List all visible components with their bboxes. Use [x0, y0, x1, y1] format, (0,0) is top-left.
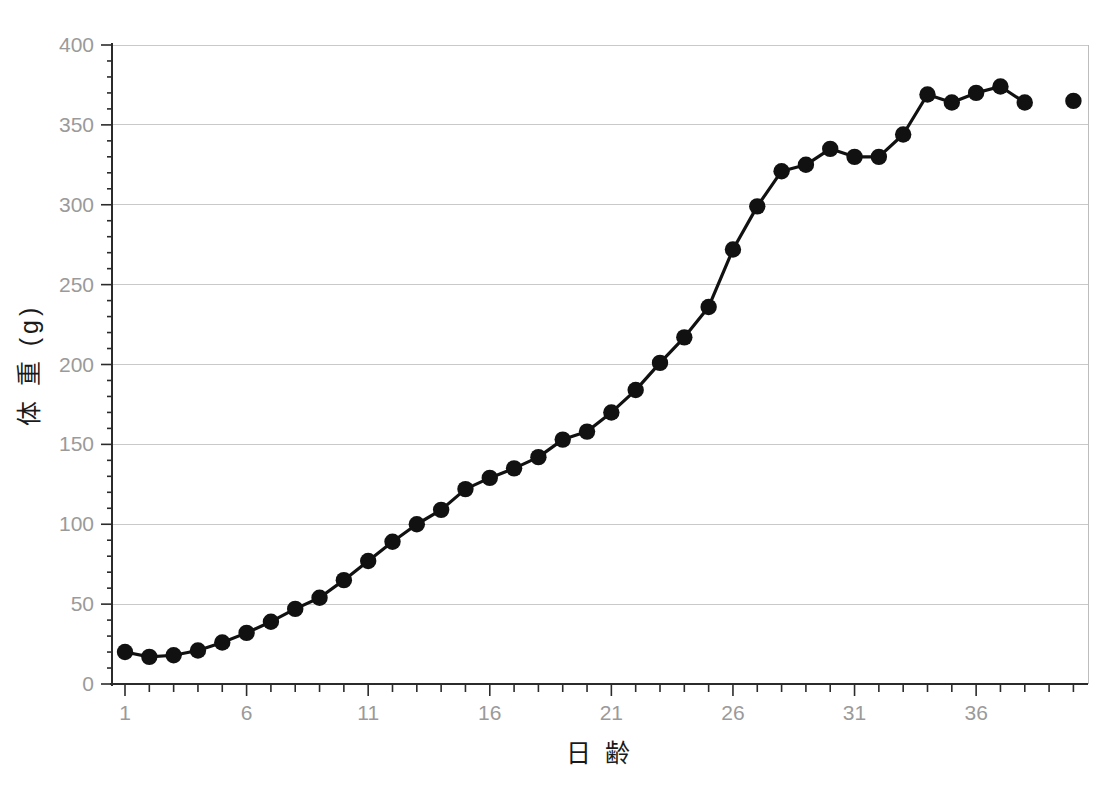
- data-point-marker: [433, 502, 449, 518]
- data-point-marker: [627, 382, 643, 398]
- x-tick-label: 36: [964, 701, 987, 724]
- data-point-marker: [798, 157, 814, 173]
- data-point-marker: [117, 644, 133, 660]
- data-point-marker: [676, 329, 692, 345]
- y-tick-label: 300: [59, 193, 94, 216]
- x-tick-label: 1: [119, 701, 131, 724]
- data-point-marker: [871, 149, 887, 165]
- data-point-marker: [214, 634, 230, 650]
- data-point-marker: [555, 431, 571, 447]
- data-point-marker: [506, 460, 522, 476]
- data-point-marker: [1017, 94, 1033, 110]
- data-point-marker: [579, 423, 595, 439]
- data-point-marker: [287, 601, 303, 617]
- x-tick-label: 31: [843, 701, 866, 724]
- data-point-marker: [968, 85, 984, 101]
- data-point-marker: [603, 404, 619, 420]
- data-point-marker: [457, 481, 473, 497]
- y-tick-label: 150: [59, 432, 94, 455]
- data-point-marker: [165, 647, 181, 663]
- y-tick-label: 50: [71, 592, 94, 615]
- data-point-marker: [749, 198, 765, 214]
- x-tick-label: 6: [241, 701, 253, 724]
- data-point-marker: [311, 590, 327, 606]
- y-axis-ticks: 050100150200250300350400: [59, 33, 112, 695]
- y-axis-title: 体 重 (g): [15, 304, 43, 426]
- y-tick-label: 400: [59, 33, 94, 56]
- y-tick-label: 250: [59, 273, 94, 296]
- chart-page: 050100150200250300350400 16111621263136 …: [0, 0, 1119, 786]
- data-point-marker: [846, 149, 862, 165]
- data-point-marker: [360, 553, 376, 569]
- growth-curve-chart: 050100150200250300350400 16111621263136 …: [0, 0, 1119, 786]
- data-point-marker: [409, 516, 425, 532]
- y-tick-label: 100: [59, 512, 94, 535]
- y-tick-label: 0: [82, 672, 94, 695]
- x-axis-ticks: [125, 684, 1073, 696]
- data-point-marker: [992, 78, 1008, 94]
- data-point-marker: [482, 470, 498, 486]
- y-tick-label: 350: [59, 113, 94, 136]
- data-point-marker: [384, 534, 400, 550]
- data-point-marker: [919, 86, 935, 102]
- data-point-marker: [190, 642, 206, 658]
- x-tick-label: 16: [478, 701, 501, 724]
- data-point-marker: [238, 625, 254, 641]
- x-axis-tick-labels: 16111621263136: [119, 701, 988, 724]
- data-point-marker: [530, 449, 546, 465]
- data-point-marker: [773, 163, 789, 179]
- data-point-marker: [725, 241, 741, 257]
- data-point-marker: [141, 649, 157, 665]
- data-point-marker: [944, 94, 960, 110]
- x-tick-label: 26: [721, 701, 744, 724]
- x-axis-title: 日 齢: [566, 739, 635, 767]
- data-point-marker: [652, 355, 668, 371]
- y-tick-label: 200: [59, 353, 94, 376]
- x-tick-label: 11: [357, 701, 379, 724]
- data-point-marker: [895, 126, 911, 142]
- data-point-marker: [700, 299, 716, 315]
- x-tick-label: 21: [600, 701, 623, 724]
- data-point-marker: [263, 614, 279, 630]
- data-point-marker: [1065, 93, 1081, 109]
- data-point-marker: [822, 141, 838, 157]
- data-point-marker: [336, 572, 352, 588]
